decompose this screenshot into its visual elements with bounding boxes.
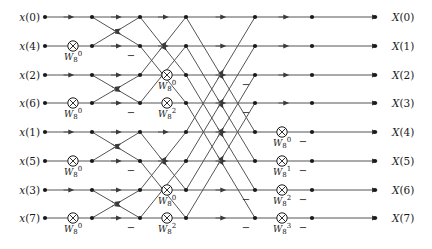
node-dot	[253, 101, 257, 105]
input-label-3: x(6)	[19, 97, 40, 109]
node-dot	[90, 159, 94, 163]
node-dot	[184, 188, 188, 192]
node-dot	[138, 101, 142, 105]
node-dot	[43, 44, 47, 48]
node-dot	[90, 44, 94, 48]
output-label-7: X(7)	[392, 212, 414, 224]
node-dot	[184, 73, 188, 77]
node-dot	[43, 130, 47, 134]
input-label-5: x(5)	[19, 155, 40, 167]
node-dot	[138, 73, 142, 77]
minus-sign-6: −	[242, 194, 250, 205]
minus-sign-4: −	[242, 79, 250, 90]
node-dot	[253, 216, 257, 220]
node-dot	[373, 15, 377, 19]
node-dot	[373, 188, 377, 192]
output-label-1: X(1)	[392, 40, 414, 52]
twiddle-factor-label-s2-r7: W82	[158, 222, 176, 236]
twiddle-factor-label-s2-r3: W82	[158, 107, 176, 121]
node-dot	[253, 73, 257, 77]
node-dot	[138, 188, 142, 192]
node-dot	[184, 15, 188, 19]
minus-sign-8: −	[299, 136, 307, 147]
node-dot	[373, 101, 377, 105]
node-dot	[310, 44, 314, 48]
output-label-4: X(4)	[392, 126, 414, 138]
node-dot	[184, 159, 188, 163]
node-dot	[253, 130, 257, 134]
node-dot	[138, 130, 142, 134]
node-dot	[90, 216, 94, 220]
node-dot	[90, 130, 94, 134]
node-dot	[184, 216, 188, 220]
output-label-6: X(6)	[392, 184, 414, 196]
node-dot	[310, 15, 314, 19]
node-dot	[90, 73, 94, 77]
node-dot	[43, 159, 47, 163]
node-dot	[43, 73, 47, 77]
twiddle-factor-label-s3-r7: W83	[273, 222, 291, 236]
node-dot	[373, 159, 377, 163]
node-dot	[373, 216, 377, 220]
minus-sign-0: −	[127, 50, 135, 61]
node-dot	[253, 15, 257, 19]
input-label-1: x(4)	[19, 40, 40, 52]
node-dot	[253, 188, 257, 192]
node-dot	[373, 44, 377, 48]
output-label-3: X(3)	[392, 97, 414, 109]
node-dot	[373, 73, 377, 77]
output-label-0: X(0)	[392, 11, 414, 23]
node-dot	[253, 44, 257, 48]
twiddle-factor-label-s1-r1: W80	[64, 50, 82, 64]
twiddle-factor-label-s3-r5: W81	[273, 165, 291, 179]
twiddle-factor-label-s1-r3: W80	[64, 107, 82, 121]
node-dot	[310, 188, 314, 192]
node-dot	[90, 101, 94, 105]
node-dot	[310, 216, 314, 220]
input-label-0: x(0)	[19, 11, 40, 23]
input-label-7: x(7)	[19, 212, 40, 224]
node-dot	[90, 188, 94, 192]
minus-sign-5: −	[242, 107, 250, 118]
minus-sign-10: −	[299, 194, 307, 205]
minus-sign-2: −	[127, 165, 135, 176]
output-label-2: X(2)	[392, 69, 414, 81]
minus-sign-9: −	[299, 165, 307, 176]
fft-butterfly-diagram: x(0)x(4)x(2)x(6)x(1)x(5)x(3)x(7) X(0)X(1…	[0, 0, 432, 249]
node-dot	[138, 44, 142, 48]
node-dot	[43, 216, 47, 220]
node-dot	[310, 101, 314, 105]
twiddle-factor-label-s3-r4: W80	[273, 136, 291, 150]
minus-sign-3: −	[127, 222, 135, 233]
edge-layer	[45, 17, 375, 218]
node-dot	[43, 101, 47, 105]
minus-sign-1: −	[127, 107, 135, 118]
node-dot	[138, 159, 142, 163]
twiddle-factor-label-s1-r5: W80	[64, 165, 82, 179]
node-dot	[373, 130, 377, 134]
node-dot	[90, 15, 94, 19]
node-dot	[184, 101, 188, 105]
twiddle-factor-label-s2-r2: W80	[158, 79, 176, 93]
input-label-6: x(3)	[19, 184, 40, 196]
node-dot	[43, 188, 47, 192]
signal-flow-graph-wiring	[0, 0, 432, 249]
minus-sign-7: −	[242, 222, 250, 233]
output-label-5: X(5)	[392, 155, 414, 167]
node-dot	[184, 44, 188, 48]
node-dot	[43, 15, 47, 19]
node-dot	[310, 159, 314, 163]
twiddle-factor-label-s1-r7: W80	[64, 222, 82, 236]
twiddle-factor-label-s3-r6: W82	[273, 194, 291, 208]
input-label-2: x(2)	[19, 69, 40, 81]
node-dot	[138, 216, 142, 220]
input-label-4: x(1)	[19, 126, 40, 138]
node-dot	[138, 15, 142, 19]
node-dot	[184, 130, 188, 134]
node-dot	[310, 73, 314, 77]
twiddle-factor-label-s2-r6: W80	[158, 194, 176, 208]
minus-sign-11: −	[299, 222, 307, 233]
node-dot	[310, 130, 314, 134]
node-dot	[253, 159, 257, 163]
